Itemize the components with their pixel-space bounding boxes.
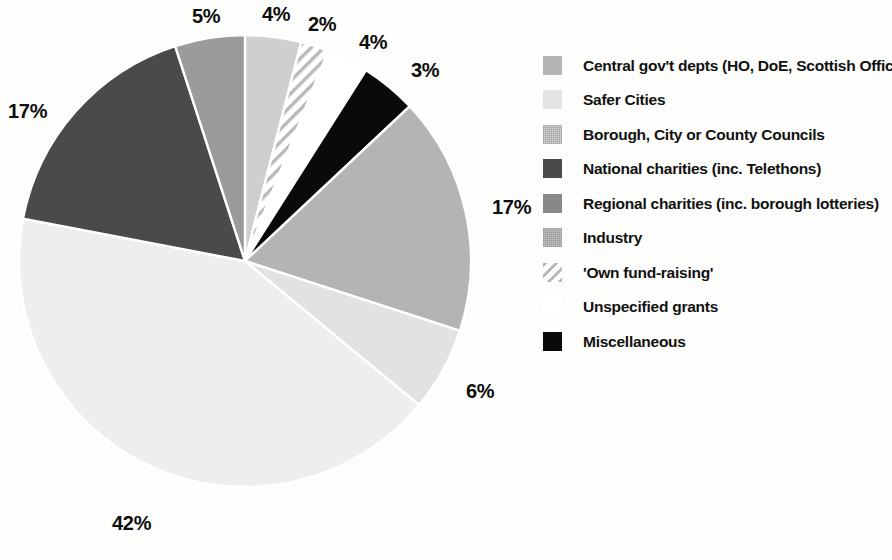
legend-item-label: Central gov't depts (HO, DoE, Scottish O… [583, 58, 892, 74]
label-national-charities-17: 17% [8, 101, 47, 121]
chart-legend: Central gov't depts (HO, DoE, Scottish O… [543, 48, 888, 359]
legend-item-national-charities-inc-telethons[interactable]: National charities (inc. Telethons) [543, 152, 888, 187]
legend-item-unspecified-grants[interactable]: Unspecified grants [543, 290, 888, 325]
pie-slices-group [19, 35, 471, 487]
label-miscellaneous-4: 4% [359, 32, 387, 52]
color-swatch-icon [543, 228, 562, 247]
legend-item-label: Industry [583, 230, 642, 246]
color-swatch-icon [543, 332, 562, 351]
color-swatch-icon [543, 56, 562, 75]
color-swatch-icon [543, 90, 562, 109]
label-unspecified-3: 3% [411, 60, 439, 80]
legend-item-label: National charities (inc. Telethons) [583, 161, 821, 177]
legend-item-label: Miscellaneous [583, 334, 686, 350]
color-swatch-icon [543, 125, 562, 144]
label-safer-cities-4: 4% [262, 4, 290, 24]
legend-item-label: Borough, City or County Councils [583, 127, 825, 143]
legend-item-regional-charities-inc-borough-lotteries[interactable]: Regional charities (inc. borough lotteri… [543, 186, 888, 221]
legend-item-label: Unspecified grants [583, 299, 718, 315]
label-borough-councils-6: 6% [466, 381, 494, 401]
legend-item-safer-cities[interactable]: Safer Cities [543, 83, 888, 118]
legend-item-own-fund-raising[interactable]: 'Own fund-raising' [543, 255, 888, 290]
label-industry-42: 42% [112, 513, 151, 533]
legend-item-label: Regional charities (inc. borough lotteri… [583, 196, 879, 212]
label-central-gov-17: 17% [492, 197, 531, 217]
label-own-fundraising-2: 2% [308, 14, 336, 34]
pie-chart-svg [0, 0, 520, 560]
label-regional-5: 5% [192, 6, 220, 26]
color-swatch-icon [543, 194, 562, 213]
color-swatch-icon [543, 297, 562, 316]
legend-item-central-gov-t-depts-ho-doe-scottish-office[interactable]: Central gov't depts (HO, DoE, Scottish O… [543, 48, 888, 83]
legend-item-industry[interactable]: Industry [543, 221, 888, 256]
legend-item-borough-city-or-county-councils[interactable]: Borough, City or County Councils [543, 117, 888, 152]
legend-item-miscellaneous[interactable]: Miscellaneous [543, 324, 888, 359]
legend-item-label: 'Own fund-raising' [583, 265, 713, 281]
hatch-swatch-icon [543, 263, 562, 282]
legend-item-label: Safer Cities [583, 92, 665, 108]
pie-chart-page: 5%4%2%4%3%17%6%42%17% Central gov't dept… [0, 0, 892, 560]
pie-chart-area: 5%4%2%4%3%17%6%42%17% [0, 0, 520, 560]
color-swatch-icon [543, 159, 562, 178]
